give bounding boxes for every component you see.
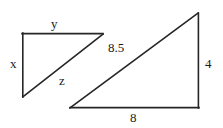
label-small-vertical-leg: x xyxy=(10,57,17,70)
label-large-horizontal-leg: 8 xyxy=(130,111,137,124)
label-large-vertical-leg: 4 xyxy=(205,57,212,70)
label-small-horizontal-leg: y xyxy=(51,17,58,30)
large-triangle-hypotenuse xyxy=(70,13,198,108)
label-small-hypotenuse: z xyxy=(59,74,65,87)
large-triangle xyxy=(70,13,199,108)
triangles-svg xyxy=(0,0,223,128)
label-large-hypotenuse: 8.5 xyxy=(108,41,124,54)
figure-canvas: x y z 8.5 4 8 xyxy=(0,0,223,128)
